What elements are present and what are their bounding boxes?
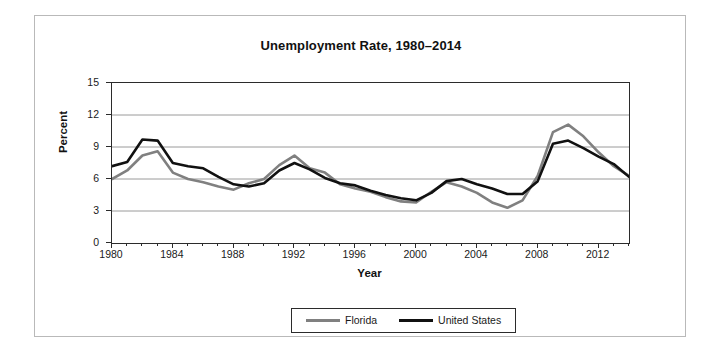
legend-label: United States (438, 314, 501, 326)
x-tick-label: 1980 (88, 248, 134, 260)
x-tick-mark (400, 243, 401, 246)
y-tick-label: 12 (77, 108, 99, 120)
x-tick-mark (491, 243, 492, 246)
x-tick-label: 2008 (514, 248, 560, 260)
x-tick-label: 1992 (270, 248, 316, 260)
x-tick-mark (567, 243, 568, 246)
legend-entry-florida[interactable]: Florida (306, 314, 377, 326)
x-tick-mark (187, 243, 188, 246)
x-tick-mark (370, 243, 371, 246)
x-tick-label: 2000 (392, 248, 438, 260)
x-tick-mark (613, 243, 614, 246)
y-axis-title: Percent (57, 92, 69, 172)
x-tick-mark (217, 243, 218, 246)
x-tick-mark (278, 243, 279, 246)
x-tick-mark (430, 243, 431, 246)
x-axis-tick-labels: 198019841988199219962000200420082012 (111, 248, 628, 264)
x-tick-mark (446, 243, 447, 246)
x-tick-label: 1996 (331, 248, 377, 260)
legend-line-swatch (306, 319, 340, 322)
x-tick-mark (202, 243, 203, 246)
x-tick-mark (385, 243, 386, 246)
x-tick-label: 2012 (575, 248, 621, 260)
chart-title: Unemployment Rate, 1980–2014 (35, 38, 687, 53)
y-tick-label: 3 (77, 204, 99, 216)
chart-figure-frame: Unemployment Rate, 1980–2014 Percent 036… (34, 15, 686, 337)
plot-area (111, 82, 630, 244)
y-tick-label: 9 (77, 140, 99, 152)
series-line-united-states (112, 140, 629, 201)
x-tick-mark (263, 243, 264, 246)
y-tick-label: 6 (77, 172, 99, 184)
legend-entry-united-states[interactable]: United States (399, 314, 501, 326)
x-tick-mark (324, 243, 325, 246)
legend-label: Florida (345, 314, 377, 326)
x-tick-mark (126, 243, 127, 246)
x-tick-label: 1988 (210, 248, 256, 260)
x-tick-mark (552, 243, 553, 246)
x-tick-mark (248, 243, 249, 246)
x-tick-mark (157, 243, 158, 246)
x-tick-mark (628, 243, 629, 246)
y-tick-label: 0 (77, 236, 99, 248)
x-tick-mark (339, 243, 340, 246)
x-axis-title: Year (111, 267, 628, 279)
x-tick-label: 1984 (149, 248, 195, 260)
legend-line-swatch (399, 319, 433, 322)
x-tick-mark (461, 243, 462, 246)
x-tick-mark (506, 243, 507, 246)
y-tick-label: 15 (77, 76, 99, 88)
x-tick-mark (582, 243, 583, 246)
chart-legend: FloridaUnited States (291, 308, 516, 333)
x-tick-mark (309, 243, 310, 246)
x-tick-mark (141, 243, 142, 246)
x-tick-mark (522, 243, 523, 246)
x-tick-label: 2004 (453, 248, 499, 260)
chart-lines-svg (112, 83, 629, 243)
y-axis-tick-labels: 03691215 (77, 82, 99, 242)
